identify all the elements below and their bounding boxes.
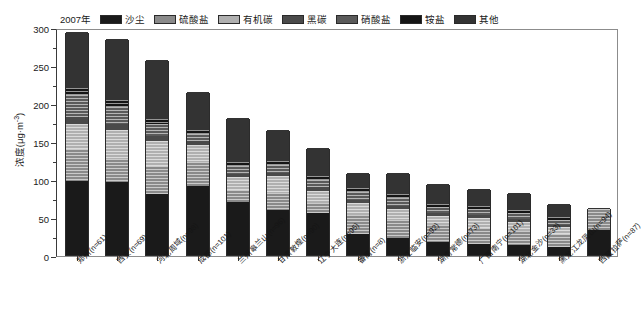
bar-segment-5 <box>468 206 490 209</box>
legend-swatch-liusuanyan <box>154 15 176 24</box>
bar-segment-3 <box>227 174 249 177</box>
bar-segment-5 <box>347 188 369 192</box>
legend-swatch-youjitan <box>218 15 240 24</box>
legend-item-liusuanyan: 硫酸盐 <box>154 12 209 26</box>
bar-segment-2 <box>227 177 249 190</box>
bar-segment-1 <box>146 166 168 194</box>
bar-segment-6 <box>307 148 329 176</box>
stacked-bar[interactable] <box>65 33 89 256</box>
legend-swatch-qita <box>454 15 476 24</box>
stacked-bar[interactable] <box>306 149 330 256</box>
bar-segment-4 <box>427 207 449 213</box>
bar-segment-0 <box>106 182 128 255</box>
legend-year-label: 2007年 <box>60 12 91 26</box>
legend-label-heitan: 黑碳 <box>307 12 327 26</box>
bar-segment-2 <box>267 176 289 193</box>
stacked-bar[interactable] <box>145 61 169 256</box>
bar-segment-4 <box>307 180 329 188</box>
bar-segment-5 <box>387 194 409 198</box>
bar-segment-1 <box>267 193 289 210</box>
bar-segment-5 <box>508 210 530 213</box>
legend-item-anyan: 铵盐 <box>400 12 445 26</box>
bar-segment-3 <box>347 200 369 204</box>
bar-segment-3 <box>66 117 88 125</box>
bar-segment-1 <box>106 159 128 182</box>
plot-area <box>56 29 618 257</box>
legend-item-qita: 其他 <box>454 12 499 26</box>
bar-segment-6 <box>387 173 409 194</box>
bar-segment-3 <box>387 206 409 210</box>
bar-segment-6 <box>427 184 449 205</box>
legend-item-heitan: 黑碳 <box>282 12 327 26</box>
bar-segment-5 <box>106 100 128 107</box>
y-tick-label: 250 <box>33 62 49 73</box>
bar-segment-1 <box>187 162 209 186</box>
bar-segment-6 <box>347 173 369 188</box>
bar-segment-4 <box>66 95 88 116</box>
bar-segment-3 <box>146 136 168 141</box>
bar-segment-5 <box>267 161 289 166</box>
bar-segment-4 <box>468 209 490 215</box>
legend-swatch-anyan <box>400 15 422 24</box>
bar-segment-1 <box>387 220 409 238</box>
y-axis: 浓度(μg·m-3) 050100150200250300 <box>0 29 56 257</box>
bar-segment-2 <box>66 124 88 149</box>
bar-segment-2 <box>187 145 209 162</box>
bar-segment-5 <box>548 217 570 220</box>
bar-segment-6 <box>187 92 209 131</box>
bar-segment-4 <box>387 198 409 206</box>
bar-segment-1 <box>66 149 88 181</box>
bar-segment-4 <box>227 166 249 174</box>
bar-segment-2 <box>347 203 369 214</box>
bar-segment-0 <box>66 181 88 255</box>
bar-segment-3 <box>187 141 209 145</box>
stacked-bar[interactable] <box>386 174 410 256</box>
bar-segment-5 <box>307 176 329 180</box>
bar-segment-6 <box>468 189 490 206</box>
bar-segment-5 <box>146 119 168 124</box>
chart-legend: 2007年 沙尘 硫酸盐 有机碳 黑碳 硝酸盐 铵盐 其他 <box>60 11 623 27</box>
legend-label-qita: 其他 <box>479 12 499 26</box>
bar-segment-2 <box>146 141 168 166</box>
y-tick-label: 150 <box>33 138 49 149</box>
bar-segment-3 <box>267 173 289 176</box>
bar-segment-2 <box>106 130 128 159</box>
bar-segment-5 <box>187 130 209 134</box>
bar-segment-5 <box>66 88 88 96</box>
legend-label-youjitan: 有机碳 <box>243 12 273 26</box>
bar-segment-6 <box>508 193 530 210</box>
bar-segment-5 <box>427 204 449 207</box>
legend-swatch-heitan <box>282 15 304 24</box>
bar-segment-3 <box>106 124 128 130</box>
y-tick-label: 300 <box>33 24 49 35</box>
bar-segment-4 <box>106 107 128 124</box>
bar-segment-2 <box>307 191 329 203</box>
bar-segment-6 <box>267 130 289 161</box>
y-tick-label: 100 <box>33 176 49 187</box>
legend-label-xiaosuanyan: 硝酸盐 <box>361 12 391 26</box>
legend-item-youjitan: 有机碳 <box>218 12 273 26</box>
legend-item-xiaosuanyan: 硝酸盐 <box>336 12 391 26</box>
legend-label-shachen: 沙尘 <box>125 12 145 26</box>
stacked-bar[interactable] <box>105 40 129 256</box>
bar-segment-1 <box>307 203 329 213</box>
bar-segment-4 <box>347 192 369 200</box>
bar-segment-6 <box>106 39 128 100</box>
legend-swatch-xiaosuanyan <box>336 15 358 24</box>
bar-segment-6 <box>66 32 88 87</box>
legend-label-liusuanyan: 硫酸盐 <box>179 12 209 26</box>
bar-segment-1 <box>227 190 249 202</box>
bars-container <box>57 30 617 256</box>
bar-segment-6 <box>548 204 570 217</box>
bar-segment-5 <box>227 162 249 167</box>
bar-segment-4 <box>146 124 168 135</box>
bar-segment-2 <box>387 209 409 220</box>
bar-segment-4 <box>187 134 209 141</box>
bar-segment-6 <box>146 60 168 119</box>
legend-label-anyan: 铵盐 <box>425 12 445 26</box>
stacked-bar[interactable] <box>346 174 370 256</box>
legend-item-shachen: 沙尘 <box>100 12 145 26</box>
y-axis-title: 浓度(μg·m-3) <box>12 95 26 185</box>
bar-segment-3 <box>307 187 329 191</box>
